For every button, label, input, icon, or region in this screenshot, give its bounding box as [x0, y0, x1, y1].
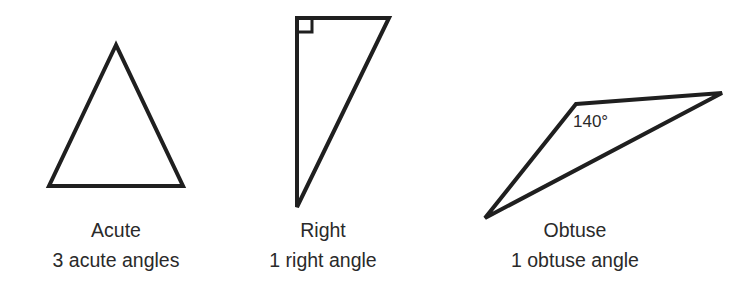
acute-triangle [49, 45, 183, 186]
right-name: Right [223, 218, 423, 242]
right-caption: Right 1 right angle [223, 218, 423, 272]
acute-caption: Acute 3 acute angles [16, 218, 216, 272]
acute-name: Acute [16, 218, 216, 242]
right-angle-marker [297, 18, 312, 32]
acute-description: 3 acute angles [16, 248, 216, 272]
obtuse-name: Obtuse [475, 218, 675, 242]
obtuse-description: 1 obtuse angle [475, 248, 675, 272]
obtuse-angle-label: 140° [573, 112, 608, 132]
right-description: 1 right angle [223, 248, 423, 272]
obtuse-caption: Obtuse 1 obtuse angle [475, 218, 675, 272]
right-triangle [297, 18, 389, 207]
